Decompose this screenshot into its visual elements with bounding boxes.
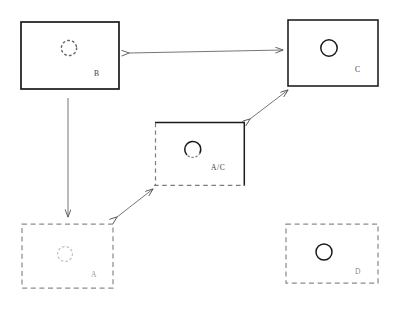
box-ac-label: A/C bbox=[211, 164, 225, 172]
box-a bbox=[22, 224, 113, 288]
arrow-ac-c-line bbox=[250, 90, 288, 119]
box-a-label: A bbox=[91, 271, 97, 279]
box-ac bbox=[154, 122, 245, 186]
box-b-label: B bbox=[94, 70, 100, 78]
arrow-b-c-line bbox=[129, 50, 283, 53]
diagram-canvas: B C A/C A D bbox=[0, 0, 402, 311]
box-c bbox=[288, 20, 378, 86]
diagram-vector-layer bbox=[0, 0, 402, 311]
box-c-outline bbox=[288, 20, 378, 86]
box-ac-circle-solid-arc bbox=[185, 141, 201, 154]
box-c-label: C bbox=[355, 66, 361, 74]
arrow-a-ac-line bbox=[117, 189, 153, 217]
box-b bbox=[21, 22, 119, 89]
arrow-ac-c bbox=[250, 90, 288, 119]
arrow-b-c bbox=[129, 50, 283, 53]
box-a-outline bbox=[22, 224, 113, 288]
box-b-circle-dotted bbox=[61, 40, 76, 55]
arrow-a-ac bbox=[117, 189, 153, 217]
box-d bbox=[286, 224, 378, 283]
box-d-circle-solid bbox=[316, 244, 332, 260]
box-ac-circle-dotted-arc bbox=[187, 153, 200, 157]
box-a-circle-dotted bbox=[58, 247, 73, 262]
box-c-circle-solid bbox=[321, 40, 337, 56]
box-d-label: D bbox=[355, 268, 361, 276]
